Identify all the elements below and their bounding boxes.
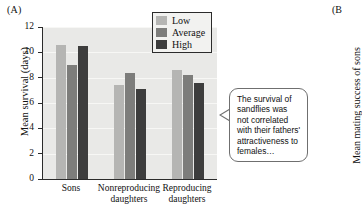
bar-high [136,89,146,179]
panel-a-label: (A) [7,4,21,15]
legend-label-average: Average [172,27,205,38]
y-axis-tick-label: 12 [4,21,34,31]
legend-item: High [156,39,205,50]
legend-swatch-low-icon [156,16,167,25]
y-axis-tick-label: 0 [4,173,34,183]
bar-avg [125,73,135,179]
legend-label-high: High [172,39,192,50]
legend: Low Average High [152,12,212,53]
bar-avg [183,75,193,179]
y-axis-tick-label: 4 [4,122,34,132]
bar-avg [67,65,77,179]
bar-low [172,70,182,179]
legend-label-low: Low [172,15,190,26]
callout-box: The survival of sandflies was not correl… [229,88,308,162]
bar-high [194,83,204,179]
panel-b-y-axis-title: Mean mating success of sons [351,26,362,186]
panel-b-label: (B [332,4,342,15]
legend-item: Average [156,27,205,38]
legend-item: Low [156,15,205,26]
bar-high [78,46,88,179]
x-axis-line [42,179,217,180]
y-axis-tick-label: 10 [4,46,34,56]
bar-low [114,85,124,179]
panel-a: (A) Mean survival (days) 121086420 SonsN… [0,0,320,216]
y-axis-tick-label: 6 [4,97,34,107]
panel-b: (B Mean mating success of sons [320,0,361,216]
x-axis-label: Reproducing daughters [148,183,226,205]
legend-swatch-high-icon [156,40,167,49]
y-axis-tick-label: 2 [4,148,34,158]
bar-low [56,45,66,179]
legend-swatch-average-icon [156,28,167,37]
y-axis-tick-label: 8 [4,72,34,82]
